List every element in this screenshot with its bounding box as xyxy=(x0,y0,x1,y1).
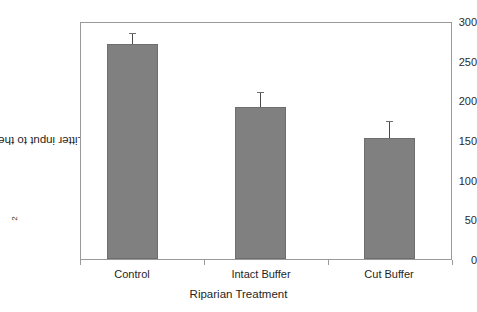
error-bar-cap-cut-buffer xyxy=(386,121,393,122)
x-tick-label-cut-buffer: Cut Buffer xyxy=(364,268,413,281)
plot-area xyxy=(80,22,452,260)
x-tick-label-control: Control xyxy=(114,268,149,281)
y-axis-title-exponent: 2 xyxy=(10,216,19,220)
bar-intact-buffer xyxy=(235,107,286,259)
bar-control xyxy=(107,44,158,259)
error-bar-cut-buffer xyxy=(389,121,390,138)
bar-cut-buffer xyxy=(364,138,415,259)
error-bar-cap-intact-buffer xyxy=(257,92,264,93)
x-tick-mark-3 xyxy=(452,260,453,265)
y-axis-title: Litter input to the stream (gm/m2) xyxy=(9,22,25,260)
x-tick-mark-1 xyxy=(204,260,205,265)
x-axis-title: Riparian Treatment xyxy=(0,288,477,300)
x-tick-label-intact-buffer: Intact Buffer xyxy=(231,268,290,281)
error-bar-control xyxy=(132,33,133,44)
bar-chart-figure: Litter input to the stream (gm/m2) 300 2… xyxy=(0,0,477,312)
error-bar-intact-buffer xyxy=(260,92,261,107)
error-bar-cap-control xyxy=(129,33,136,34)
x-tick-mark-0 xyxy=(80,260,81,265)
x-tick-mark-2 xyxy=(328,260,329,265)
y-axis-title-text: Litter input to the stream (gm/m2) xyxy=(0,61,36,221)
